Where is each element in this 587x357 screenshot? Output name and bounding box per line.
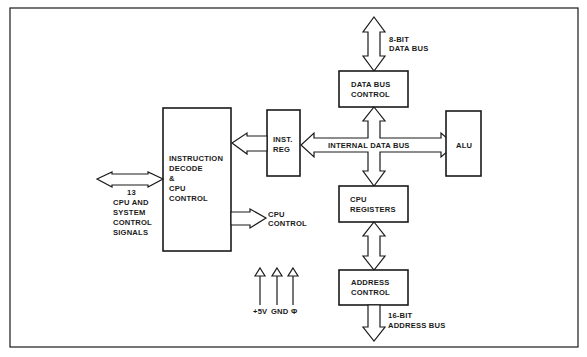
data-bus-control-block: DATA BUS CONTROL (339, 71, 408, 107)
power-input-5v (255, 268, 265, 305)
power-input-clock (288, 268, 298, 305)
control-signals-label-2: CPU AND (113, 198, 149, 207)
alu-block: ALU (446, 111, 481, 176)
address-control-block: ADDRESS CONTROL (339, 270, 408, 305)
cpu-control-output-label-2: CONTROL (268, 219, 307, 228)
inst-reg-label-2: REG (273, 145, 290, 154)
address-bus-label-1: 16-BIT (388, 311, 413, 320)
address-bus-arrow (363, 305, 385, 341)
external-data-bus-label-1: 8-BIT (389, 35, 409, 44)
diagram-frame (10, 8, 578, 347)
cpu-registers-label-1: CPU (350, 195, 367, 204)
inst-reg-to-decode-arrow (232, 133, 267, 154)
address-bus-label-2: ADDRESS BUS (388, 321, 445, 330)
control-signals-arrow (97, 172, 163, 187)
power-label-5v: +5V (253, 307, 268, 316)
data-bus-control-label-2: CONTROL (351, 90, 390, 99)
control-signals-label-5: SIGNALS (113, 228, 148, 237)
control-signals-label-3: SYSTEM (113, 208, 145, 217)
control-signals-label-1: 13 (127, 188, 136, 197)
external-data-bus-arrow (363, 17, 385, 71)
instruction-decode-label-2: DECODE (169, 164, 203, 173)
inst-reg-block: INST. REG (267, 110, 300, 176)
address-control-label-2: CONTROL (351, 288, 390, 297)
instruction-decode-label-1: INSTRUCTION (169, 154, 223, 163)
instruction-decode-label-4: CPU (169, 184, 186, 193)
external-data-bus-label-2: DATA BUS (389, 44, 428, 53)
instruction-decode-block: INSTRUCTION DECODE & CPU CONTROL (163, 108, 231, 251)
address-control-label-1: ADDRESS (351, 278, 390, 287)
cpu-registers-label-2: REGISTERS (350, 205, 396, 214)
power-label-gnd: GND (271, 307, 289, 316)
cpu-control-output-label-1: CPU (268, 210, 285, 219)
power-input-gnd (272, 268, 282, 305)
cpu-control-output-arrow (231, 209, 266, 228)
power-label-clock: Φ (291, 307, 297, 316)
registers-address-arrow (363, 222, 385, 270)
alu-label: ALU (456, 141, 473, 150)
instruction-decode-label-3: & (169, 174, 175, 183)
inst-reg-label-1: INST. (273, 135, 293, 144)
data-bus-control-label-1: DATA BUS (351, 80, 390, 89)
cpu-block-diagram: 8-BIT DATA BUS DATA BUS CONTROL INTERNAL… (0, 0, 587, 357)
internal-data-bus-label: INTERNAL DATA BUS (328, 141, 410, 150)
instruction-decode-label-5: CONTROL (169, 194, 208, 203)
cpu-registers-block: CPU REGISTERS (339, 186, 408, 222)
control-signals-label-4: CONTROL (113, 218, 152, 227)
